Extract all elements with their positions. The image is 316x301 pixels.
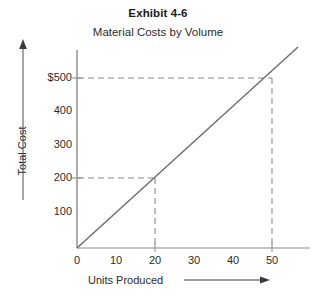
cost-line-series (77, 47, 298, 248)
chart-plot-area (0, 0, 316, 301)
arrow-right-icon (184, 276, 270, 283)
chart-figure: Exhibit 4-6 Material Costs by Volume Tot… (0, 0, 316, 301)
arrow-up-icon (19, 39, 27, 200)
